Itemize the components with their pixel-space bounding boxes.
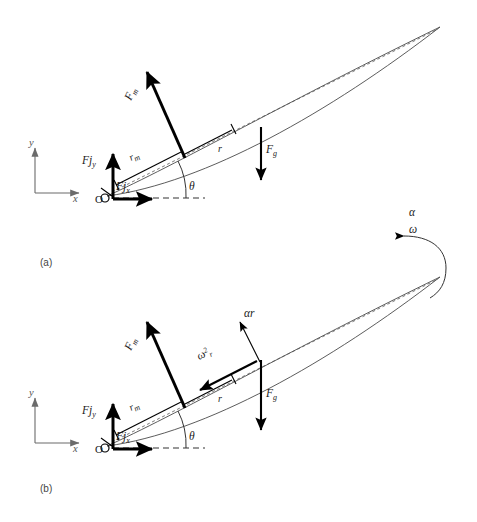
joint-reaction-horizontal-base-b: Fj <box>115 430 126 443</box>
origin-label-b: O <box>95 443 103 455</box>
centripetal-acceleration-vector-b <box>200 361 257 390</box>
muscle-moment-arm-label-a: rm <box>127 149 142 165</box>
joint-reaction-horizontal-sub-a: x <box>125 186 130 195</box>
theta-label-a: θ <box>189 180 195 192</box>
joint-reaction-horizontal-sub-b: x <box>125 436 130 445</box>
centripetal-acceleration-sub-b: r <box>208 349 216 359</box>
com-distance-label-a: r <box>218 143 222 154</box>
coordinate-frame-a: y x <box>28 137 79 204</box>
x-axis-label-a: x <box>72 193 78 204</box>
angular-velocity-label-b: ω <box>409 223 417 235</box>
gravity-force-label-b: Fg <box>265 387 277 402</box>
panel-caption-b: (b) <box>40 483 52 494</box>
joint-reaction-horizontal-base-a: Fj <box>115 180 126 193</box>
x-axis-label-b: x <box>72 443 78 454</box>
muscle-force-vector-b <box>147 322 185 408</box>
com-distance-label-b: r <box>218 393 222 404</box>
theta-label-b: θ <box>189 430 195 442</box>
joint-reaction-horizontal-label-b: Fjx <box>115 430 130 445</box>
tangential-acceleration-label-b: αr <box>244 307 255 319</box>
joint-reaction-vertical-sub-a: y <box>91 160 96 169</box>
gravity-force-label-sub-a: g <box>273 149 277 158</box>
centripetal-acceleration-label-b: ω2r <box>194 344 215 365</box>
joint-reaction-vertical-label-b: Fjy <box>81 404 96 419</box>
panel-caption-a: (a) <box>40 257 52 268</box>
angular-acceleration-label-b: α <box>409 206 416 218</box>
joint-reaction-vertical-base-a: Fj <box>81 154 92 167</box>
y-axis-label-b: y <box>28 387 34 398</box>
origin-label-a: O <box>95 193 103 205</box>
limb-segment-b <box>107 277 440 446</box>
joint-reaction-vertical-label-a: Fjy <box>81 154 96 169</box>
figure-root: θ Fm rm r Fg Fjy Fjx y x O <box>0 0 477 522</box>
muscle-moment-arm-label-b: rm <box>127 399 142 415</box>
com-distance-line-a <box>183 130 232 155</box>
coordinate-frame-b: y x <box>28 387 79 454</box>
panel-a: θ Fm rm r Fg Fjy Fjx y x O <box>28 27 440 268</box>
gravity-force-label-a: Fg <box>265 143 277 158</box>
muscle-force-vector-a <box>147 72 185 158</box>
limb-segment-a <box>107 27 440 196</box>
muscle-force-label-a: Fm <box>121 85 140 104</box>
gravity-force-label-sub-b: g <box>273 393 277 402</box>
joint-reaction-horizontal-label-a: Fjx <box>115 180 130 195</box>
theta-arc-b <box>178 411 186 448</box>
joint-reaction-vertical-base-b: Fj <box>81 404 92 417</box>
panel-b: α ω θ Fm rm r ω2r αr Fg Fjy Fjx <box>28 206 446 494</box>
theta-arc-a <box>178 161 186 198</box>
tangential-acceleration-sub-b: r <box>250 307 255 319</box>
tangential-acceleration-vector-b <box>240 322 260 362</box>
muscle-force-label-b: Fm <box>121 335 140 354</box>
biomechanics-free-body-diagram: θ Fm rm r Fg Fjy Fjx y x O <box>0 0 477 522</box>
y-axis-label-a: y <box>28 137 34 148</box>
joint-reaction-vertical-sub-b: y <box>91 410 96 419</box>
com-distance-line-b <box>183 380 232 405</box>
